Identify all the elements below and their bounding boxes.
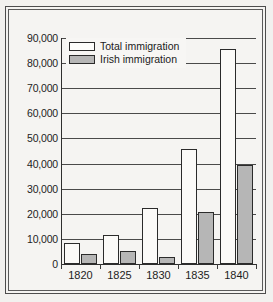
- x-tick-label-1835: 1835: [176, 270, 220, 281]
- y-tick-label-50000: 50,000: [6, 133, 58, 144]
- y-tick-label-40000: 40,000: [6, 159, 58, 170]
- y-tick-label-90000: 90,000: [6, 33, 58, 44]
- legend-item-irish: Irish immigration: [69, 53, 183, 65]
- x-tick-mark-1840: [217, 264, 218, 269]
- bar-irish-1830: [159, 257, 175, 264]
- legend-label-total: Total immigration: [100, 41, 179, 52]
- y-tick-label-20000: 20,000: [6, 209, 58, 220]
- legend-label-irish: Irish immigration: [100, 54, 177, 65]
- bar-total-1835: [181, 149, 197, 265]
- y-tick-label-70000: 70,000: [6, 83, 58, 94]
- legend-item-total: Total immigration: [69, 40, 183, 52]
- x-tick-mark-1835: [178, 264, 179, 269]
- bar-total-1840: [220, 49, 236, 264]
- y-tick-label-10000: 10,000: [6, 234, 58, 245]
- immigration-bar-chart-figure: 90,00080,00070,00060,00050,00040,00030,0…: [0, 0, 273, 302]
- x-tick-mark-1820: [61, 264, 62, 269]
- y-tick-label-60000: 60,000: [6, 108, 58, 119]
- x-tick-label-1840: 1840: [215, 270, 259, 281]
- y-tick-label-30000: 30,000: [6, 184, 58, 195]
- y-tick-label-80000: 80,000: [6, 58, 58, 69]
- legend-swatch-total: [69, 42, 95, 51]
- y-axis-tick-labels: 90,00080,00070,00060,00050,00040,00030,0…: [3, 0, 58, 302]
- x-tick-mark-1825: [100, 264, 101, 269]
- y-tick-label-0: 0: [6, 259, 58, 270]
- bar-irish-1840: [237, 165, 253, 264]
- y-axis-line: [61, 38, 62, 265]
- bar-total-1830: [142, 208, 158, 265]
- bar-total-1825: [103, 235, 119, 264]
- x-tick-label-1825: 1825: [98, 270, 142, 281]
- legend-swatch-irish: [69, 55, 95, 64]
- x-tick-label-1820: 1820: [59, 270, 103, 281]
- bar-irish-1820: [81, 254, 97, 264]
- bar-total-1820: [64, 243, 80, 264]
- chart-legend: Total immigrationIrish immigration: [66, 38, 186, 68]
- x-tick-mark-end: [256, 264, 257, 269]
- x-tick-label-1830: 1830: [137, 270, 181, 281]
- x-axis-line: [61, 264, 257, 265]
- x-tick-mark-1830: [139, 264, 140, 269]
- bar-irish-1835: [198, 212, 214, 264]
- plot-area: [61, 38, 256, 264]
- bar-irish-1825: [120, 251, 136, 264]
